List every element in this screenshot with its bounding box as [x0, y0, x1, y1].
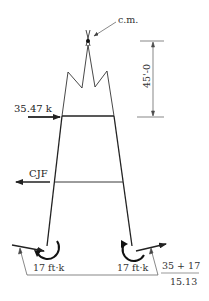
frame-body [47, 116, 132, 246]
free-body-diagram: c.m. 45'-0 35.47 k CJF 17 ft·k 17 ft·k 3… [0, 0, 209, 301]
cm-leader-line [94, 22, 116, 36]
left-moment-label: 17 ft·k [33, 262, 64, 273]
height-dimension-label: 45'-0 [141, 64, 152, 88]
center-of-mass-marker [86, 39, 90, 43]
fraction-denominator: 15.13 [170, 276, 197, 287]
cm-label: c.m. [118, 14, 138, 25]
right-moment-label: 17 ft·k [117, 262, 148, 273]
left-reaction-arrow [12, 245, 44, 251]
joint-force-label: CJF [29, 168, 48, 179]
fraction-numerator: 35 + 17 [162, 260, 200, 271]
applied-force-label: 35.47 k [14, 103, 53, 114]
right-moment-arrowhead [121, 240, 128, 248]
right-moment-icon [123, 244, 144, 261]
